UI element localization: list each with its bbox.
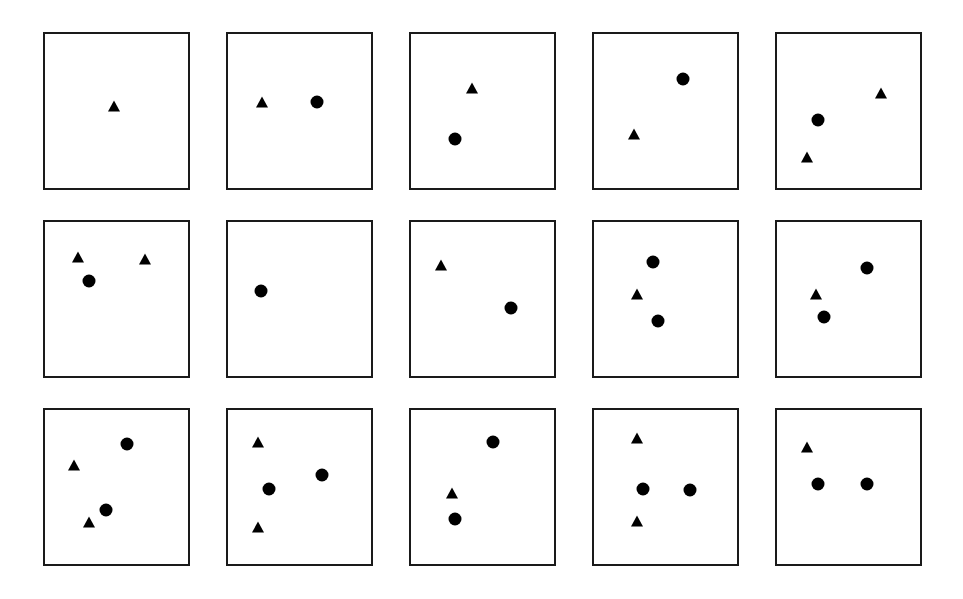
circle-marker [449,513,462,526]
circle-marker [486,436,499,449]
circle-marker [812,114,825,127]
circle-marker [683,484,696,497]
scatter-panel-8 [409,220,556,378]
scatter-panel-9 [592,220,739,378]
triangle-marker [83,517,95,528]
triangle-marker [801,152,813,163]
circle-marker [505,302,518,315]
triangle-marker [810,289,822,300]
triangle-marker [466,82,478,93]
triangle-marker [252,522,264,533]
triangle-marker [139,253,151,264]
circle-marker [652,314,665,327]
scatter-panel-7 [226,220,373,378]
triangle-marker [631,515,643,526]
scatter-panel-6 [43,220,190,378]
circle-marker [310,95,323,108]
circle-marker [100,504,113,517]
scatter-panel-12 [226,408,373,566]
triangle-marker [628,129,640,140]
scatter-panel-4 [592,32,739,190]
panel-grid [43,32,921,565]
triangle-marker [801,441,813,452]
triangle-marker [435,260,447,271]
triangle-marker [72,252,84,263]
scatter-panel-5 [775,32,922,190]
circle-marker [449,132,462,145]
scatter-panel-14 [592,408,739,566]
circle-marker [120,437,133,450]
scatter-panel-3 [409,32,556,190]
circle-marker [818,311,831,324]
circle-marker [254,285,267,298]
scatter-panel-10 [775,220,922,378]
triangle-marker [68,460,80,471]
scatter-panel-2 [226,32,373,190]
scatter-panel-11 [43,408,190,566]
scatter-panel-1 [43,32,190,190]
triangle-marker [252,437,264,448]
circle-marker [812,477,825,490]
circle-marker [861,477,874,490]
triangle-marker [631,289,643,300]
circle-marker [83,274,96,287]
triangle-marker [256,96,268,107]
scatter-panel-13 [409,408,556,566]
circle-marker [646,256,659,269]
triangle-marker [108,101,120,112]
figure-root [0,0,963,599]
circle-marker [263,482,276,495]
circle-marker [316,468,329,481]
scatter-panel-15 [775,408,922,566]
circle-marker [676,72,689,85]
triangle-marker [446,488,458,499]
triangle-marker [875,87,887,98]
circle-marker [636,482,649,495]
circle-marker [861,262,874,275]
triangle-marker [631,432,643,443]
